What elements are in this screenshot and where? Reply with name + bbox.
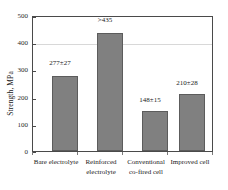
y-tick-label-500: 500 [8,12,28,20]
bar-label-conventional-co-fired-cell: 148±15 [122,96,178,104]
bar-label-improved-cell: 210±28 [159,79,215,87]
y-tick-label-0: 0 [8,148,28,156]
bar-label-bare-electrolyte: 277±27 [32,59,88,67]
y-tick-label-400: 400 [8,39,28,47]
bar-improved-cell[interactable] [179,94,205,151]
bar-reinforced-electrolyte[interactable] [97,33,123,151]
y-tick-label-100: 100 [8,121,28,129]
bar-label-reinforced-electrolyte: >435 [77,16,133,24]
bar-chart: Strength, MPa 500 400 300 200 100 0 277±… [0,0,228,190]
y-tickmark-0 [33,152,36,153]
x-category-line-2: co-fired cell [116,168,176,178]
x-tickmark-3 [167,152,168,155]
x-category-line-1: Reinforced [85,158,116,166]
y-tick-label-200: 200 [8,94,28,102]
bar-conventional-co-fired-cell[interactable] [142,111,168,151]
y-tick-label-300: 300 [8,66,28,74]
x-tickmark-0 [32,152,33,155]
x-tickmark-1 [77,152,78,155]
x-tickmark-2 [122,152,123,155]
bar-bare-electrolyte[interactable] [52,76,78,151]
x-category-line-1: Improved cell [170,158,209,166]
y-axis-tick-labels: 500 400 300 200 100 0 [8,0,28,190]
x-tickmark-4 [212,152,213,155]
x-category-label-improved-cell: Improved cell [160,158,220,168]
